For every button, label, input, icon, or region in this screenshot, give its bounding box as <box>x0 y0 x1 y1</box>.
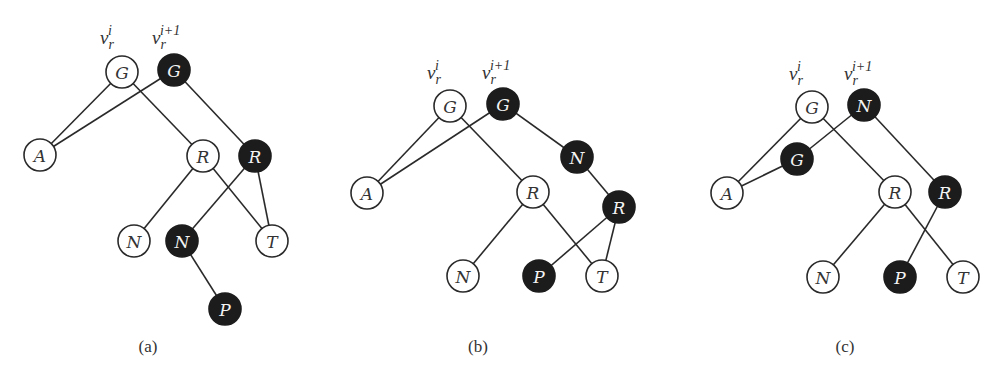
nodes-layer: GGARRNNTPGGNARRNPTGNGARRNPT <box>24 54 979 325</box>
node-N-new-version: N <box>561 141 593 173</box>
edge-Gw-Rw <box>122 72 203 156</box>
node-label: N <box>174 232 191 252</box>
node-R-new-version: R <box>239 140 271 172</box>
node-label: N <box>815 268 832 288</box>
node-label: P <box>218 300 231 320</box>
node-label: P <box>532 267 545 287</box>
figure-canvas: GGARRNNTPGGNARRNPTGNGARRNPT vrivri+1vriv… <box>0 0 1002 378</box>
panel-a <box>40 70 272 309</box>
version-labels-layer: vrivri+1vrivri+1vrivri+1 <box>100 23 872 88</box>
node-G-new-version: G <box>781 143 813 175</box>
node-label: P <box>893 268 906 288</box>
root-label-version-i: vri <box>427 58 441 87</box>
node-T-old-version: T <box>256 225 288 257</box>
node-label: G <box>805 98 819 118</box>
node-G-new-version: G <box>487 88 519 120</box>
node-N-old-version: N <box>807 261 839 293</box>
root-label-version-i: vri <box>100 23 114 52</box>
node-label: R <box>248 147 262 167</box>
node-label: A <box>32 146 46 166</box>
node-A-old-version: A <box>711 177 743 209</box>
node-label: N <box>455 267 472 287</box>
node-A-old-version: A <box>24 139 56 171</box>
node-R-new-version: R <box>929 176 961 208</box>
node-label: G <box>443 97 457 117</box>
node-P-new-version: P <box>884 261 916 293</box>
node-G-old-version: G <box>434 90 466 122</box>
node-label: T <box>596 267 609 287</box>
captions-layer: (a)(b)(c) <box>139 337 855 356</box>
edge-Gd-A <box>40 70 174 155</box>
node-label: R <box>196 147 210 167</box>
node-R-old-version: R <box>187 140 219 172</box>
node-label: A <box>719 184 733 204</box>
node-label: N <box>126 232 143 252</box>
node-R-old-version: R <box>517 176 549 208</box>
root-label-version-i: vri <box>789 59 803 88</box>
node-label: R <box>938 183 952 203</box>
node-label: T <box>957 268 970 288</box>
node-R-new-version: R <box>603 191 635 223</box>
edge-Gw-A <box>40 72 122 155</box>
node-P-new-version: P <box>523 260 555 292</box>
node-label: R <box>888 183 902 203</box>
node-R-old-version: R <box>879 176 911 208</box>
edge-Gw-Rw <box>450 106 533 192</box>
caption-panel-a: (a) <box>139 337 158 356</box>
node-label: G <box>167 61 181 81</box>
node-T-old-version: T <box>947 261 979 293</box>
node-label: G <box>790 150 804 170</box>
node-N-old-version: N <box>118 225 150 257</box>
node-T-old-version: T <box>586 260 618 292</box>
node-label: N <box>569 148 586 168</box>
edge-Gw-Rw <box>812 107 895 192</box>
caption-panel-c: (c) <box>836 337 855 356</box>
node-label: T <box>266 232 279 252</box>
node-label: A <box>359 184 373 204</box>
panel-c <box>727 105 963 277</box>
node-A-old-version: A <box>351 177 383 209</box>
node-label: R <box>526 183 540 203</box>
edge-Gd-Rd <box>174 70 255 156</box>
panel-b <box>367 104 619 276</box>
tree-diagram: GGARRNNTPGGNARRNPTGNGARRNPT vrivri+1vriv… <box>0 0 1002 378</box>
node-G-old-version: G <box>106 56 138 88</box>
edge-Gw-A <box>367 106 450 193</box>
node-G-old-version: G <box>796 91 828 123</box>
root-label-version-i-plus-1: vri+1 <box>482 58 510 87</box>
node-N-new-version: N <box>166 225 198 257</box>
caption-panel-b: (b) <box>468 337 488 356</box>
edge-Gd-A <box>367 104 503 193</box>
node-label: G <box>115 63 129 83</box>
node-label: N <box>856 96 873 116</box>
node-label: R <box>612 198 626 218</box>
node-N-old-version: N <box>447 260 479 292</box>
node-N-new-version: N <box>848 89 880 121</box>
root-label-version-i-plus-1: vri+1 <box>152 23 180 52</box>
root-label-version-i-plus-1: vri+1 <box>844 59 872 88</box>
node-label: G <box>496 95 510 115</box>
node-P-new-version: P <box>209 293 241 325</box>
node-G-new-version: G <box>158 54 190 86</box>
